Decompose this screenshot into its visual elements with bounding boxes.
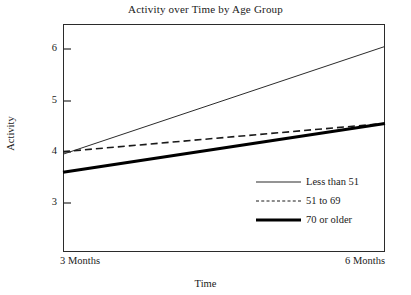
legend-line-icon-dashed	[256, 196, 301, 206]
x-tick-label-left: 3 Months	[60, 255, 100, 266]
y-tick-label-4: 4	[35, 146, 57, 156]
line-less-than-51	[63, 46, 385, 154]
y-tick-labels: 6 5 4 3	[33, 0, 57, 295]
legend-item-less-than-51: Less than 51	[256, 172, 382, 191]
chart-legend: Less than 51 51 to 69 70 or older	[256, 172, 382, 229]
legend-label-51-to-69: 51 to 69	[301, 195, 340, 206]
legend-item-51-to-69: 51 to 69	[256, 191, 382, 210]
chart-figure: Activity over Time by Age Group 6 5 4 3 …	[0, 0, 411, 295]
legend-label-70-or-older: 70 or older	[301, 214, 352, 225]
x-axis-label: Time	[0, 278, 411, 289]
legend-item-70-or-older: 70 or older	[256, 210, 382, 229]
x-tick-label-right: 6 Months	[345, 255, 385, 266]
legend-label-less-than-51: Less than 51	[301, 176, 359, 187]
chart-canvas	[0, 0, 411, 295]
legend-line-icon-thin	[256, 177, 301, 187]
y-tick-label-5: 5	[35, 95, 57, 105]
series-lines	[63, 46, 385, 172]
legend-line-icon-thick	[256, 215, 301, 225]
y-tick-label-6: 6	[35, 43, 57, 53]
y-axis-ticks	[63, 49, 71, 203]
y-tick-label-3: 3	[35, 197, 57, 207]
y-axis-label: Activity	[5, 102, 16, 166]
